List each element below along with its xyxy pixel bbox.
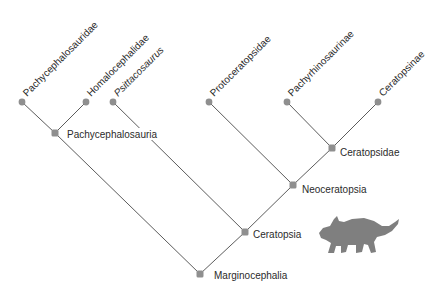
label-protoceratopsidae: Protoceratopsidae <box>208 33 273 98</box>
node-ceratopsia <box>242 229 249 236</box>
edge-ceratopsinae <box>332 102 378 148</box>
node-pachyrhinosaurinae <box>284 99 291 106</box>
label-pachycephalosauria: Pachycephalosauria <box>67 129 157 140</box>
tip-nodes <box>19 99 382 106</box>
node-protoceratopsidae <box>206 99 213 106</box>
tip-labels: Pachycephalosauridae Homalocephalidae Ps… <box>21 19 427 99</box>
label-pachyrhinosaurinae: Pachyrhinosaurinae <box>286 28 357 99</box>
edge-pachycephalosauria <box>55 133 200 274</box>
node-pachycephalosauridae <box>19 99 26 106</box>
edge-psittacosaurus <box>113 102 245 232</box>
node-ceratopsinae <box>375 99 382 106</box>
node-pachycephalosauria <box>52 130 59 137</box>
clade-nodes <box>52 130 336 278</box>
label-ceratopsia: Ceratopsia <box>253 229 302 240</box>
edge-pachycephalosauridae <box>22 102 55 133</box>
label-ceratopsidae: Ceratopsidae <box>340 147 400 158</box>
label-ceratopsinae: Ceratopsinae <box>377 48 427 98</box>
edge-ceratopsia <box>200 232 245 274</box>
edge-ceratopsidae <box>293 148 332 185</box>
edge-neoceratopsia <box>245 185 293 232</box>
node-homalocephalidae <box>83 99 90 106</box>
label-neoceratopsia: Neoceratopsia <box>302 184 367 195</box>
node-marginocephalia <box>197 271 204 278</box>
edge-protoceratopsidae <box>209 102 293 185</box>
clade-labels: Pachycephalosauria Ceratopsidae Neocerat… <box>65 128 400 281</box>
label-marginocephalia: Marginocephalia <box>214 270 288 281</box>
edge-pachyrhinosaurinae <box>287 102 332 148</box>
node-neoceratopsia <box>290 182 297 189</box>
ceratopsian-dinosaur-silhouette-icon <box>319 216 399 253</box>
cladogram: Pachycephalosauridae Homalocephalidae Ps… <box>0 0 444 286</box>
node-ceratopsidae <box>329 145 336 152</box>
label-psittacosaurus: Psittacosaurus <box>112 44 166 98</box>
node-psittacosaurus <box>110 99 117 106</box>
